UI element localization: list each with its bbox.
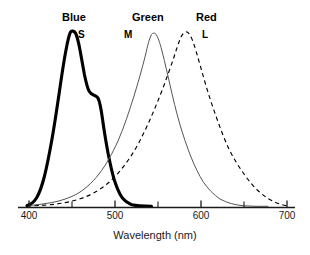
- cone-sensitivity-chart: Blue Green Red S M L 400 500 600 700 Wav…: [0, 0, 310, 255]
- series-code-l: L: [202, 29, 208, 40]
- curve-s-blue: [27, 31, 152, 206]
- x-tick-label-400: 400: [21, 210, 38, 221]
- series-label-green: Green: [132, 11, 164, 23]
- chart-plot-area: [0, 0, 310, 255]
- x-tick-label-500: 500: [107, 210, 124, 221]
- series-label-blue: Blue: [62, 11, 86, 23]
- series-code-m: M: [124, 29, 132, 40]
- x-axis-title: Wavelength (nm): [0, 229, 310, 241]
- x-tick-label-600: 600: [193, 210, 210, 221]
- x-tick-label-700: 700: [279, 210, 296, 221]
- series-code-s: S: [78, 29, 85, 40]
- series-label-red: Red: [196, 11, 217, 23]
